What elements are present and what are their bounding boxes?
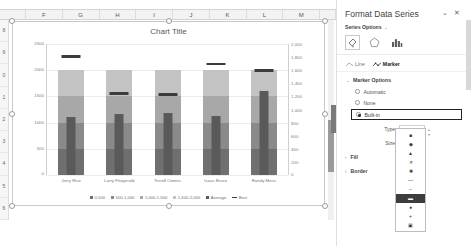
dropdown-scroll-arrows[interactable]: ▴ ▾	[427, 128, 431, 232]
best-marker[interactable]	[62, 55, 81, 58]
resize-handle-top-right[interactable]	[322, 18, 328, 24]
column-header-M[interactable]: M	[283, 10, 320, 19]
best-marker[interactable]	[110, 92, 129, 95]
bullet-columns[interactable]: Jerry RiceLarry FitzgeraldTerrell OwensI…	[47, 44, 288, 175]
row-header-cell[interactable]: 9	[0, 42, 8, 64]
line-marker-tab-row[interactable]: Line Marker	[337, 55, 471, 72]
tab-line[interactable]: Line	[346, 61, 365, 67]
chevron-down-icon[interactable]: ⌄	[384, 25, 388, 30]
average-bar[interactable]	[67, 117, 76, 175]
row-header-cell[interactable]: 1	[0, 87, 8, 109]
resize-handle-bottom-left[interactable]	[9, 203, 15, 209]
pane-scroll-thumb[interactable]	[466, 20, 471, 90]
marker-type-option[interactable]: ✕	[396, 157, 425, 166]
marker-type-option[interactable]: –	[396, 185, 425, 194]
chevron-down-icon[interactable]: ⌄	[346, 78, 350, 83]
resize-handle-middle-left[interactable]	[9, 111, 15, 117]
radio-automatic[interactable]: Automatic	[337, 86, 471, 97]
marker-type-option[interactable]: ▲	[396, 148, 425, 157]
bullet-column[interactable]: Randy Moss	[240, 44, 288, 175]
legend-color-swatch	[140, 196, 143, 199]
legend-item[interactable]: Average	[206, 195, 226, 200]
chart-legend[interactable]: 0-500500-1,0001,000-1,5001,500-2,000Aver…	[13, 195, 324, 200]
row-header-cell[interactable]: 8	[0, 20, 8, 42]
radio-icon[interactable]	[355, 100, 360, 105]
radio-icon[interactable]	[355, 89, 360, 94]
marker-type-option[interactable]: ■	[396, 130, 425, 139]
marker-type-option[interactable]: ●	[396, 203, 425, 212]
average-bar[interactable]	[163, 113, 172, 175]
legend-item[interactable]: 1,000-1,500	[140, 195, 167, 200]
bullet-column[interactable]: Isaac Bruce	[192, 44, 240, 175]
resize-handle-bottom-right[interactable]	[322, 203, 328, 209]
radio-built-in[interactable]: Built-in	[351, 109, 462, 120]
resize-handle-top-left[interactable]	[9, 18, 15, 24]
range-band[interactable]	[58, 70, 84, 96]
chevron-right-icon[interactable]: ›	[345, 169, 347, 174]
row-header-cell[interactable]: 6	[0, 198, 8, 220]
marker-type-label: Type	[337, 126, 395, 132]
row-header-cell[interactable]: 4	[0, 153, 8, 175]
column-header-L[interactable]: L	[247, 10, 284, 19]
row-header-cell[interactable]: 0	[0, 64, 8, 86]
radio-none[interactable]: None	[337, 97, 471, 108]
chart-title[interactable]: Chart Title	[13, 27, 324, 36]
column-header-G[interactable]: G	[63, 10, 100, 19]
marker-options-section-header[interactable]: ⌄ Marker Options	[337, 72, 471, 86]
legend-item[interactable]: 1,500-2,000	[173, 195, 200, 200]
plot-area[interactable]: 2500 2000 1500 1000 500 0 2,000 1,800 1,…	[47, 44, 288, 175]
tab-marker[interactable]: Marker	[373, 61, 400, 67]
marker-type-option[interactable]: ▬	[396, 194, 425, 203]
column-header-H[interactable]: H	[100, 10, 137, 19]
legend-item[interactable]: 0-500	[90, 195, 105, 200]
bullet-column[interactable]: Jerry Rice	[47, 44, 95, 175]
fill-line-icon[interactable]	[346, 36, 359, 49]
legend-item[interactable]: 500-1,000	[111, 195, 134, 200]
category-label: Isaac Bruce	[192, 178, 240, 183]
row-header-cell[interactable]: 3	[0, 131, 8, 153]
pane-icon-tabs[interactable]	[337, 33, 471, 55]
bullet-column[interactable]: Terrell Owens	[143, 44, 191, 175]
radio-icon[interactable]	[356, 112, 361, 117]
legend-color-swatch	[206, 196, 209, 199]
effects-icon[interactable]	[368, 36, 381, 49]
category-label: Randy Moss	[240, 178, 288, 183]
average-bar[interactable]	[259, 91, 268, 175]
series-options-dropdown[interactable]: Series Options ⌄	[337, 23, 471, 33]
range-band[interactable]	[203, 70, 229, 96]
chart-object[interactable]: Chart Title 2500 2000 1500 1000 500 0 2,…	[12, 21, 325, 206]
format-data-series-pane[interactable]: Format Data Series ⌄ ✕ Series Options ⌄	[336, 0, 471, 246]
column-header-K[interactable]: K	[210, 10, 247, 19]
pane-drag-strip[interactable]	[331, 105, 336, 133]
row-header-cell[interactable]: 2	[0, 109, 8, 131]
average-bar[interactable]	[211, 116, 220, 175]
close-icon[interactable]: ✕	[451, 9, 463, 17]
resize-handle-bottom-center[interactable]	[166, 203, 172, 209]
best-marker[interactable]	[254, 69, 273, 72]
marker-type-option[interactable]: +	[396, 212, 425, 221]
row-header-cell[interactable]: 5	[0, 176, 8, 198]
column-header-J[interactable]: J	[173, 10, 210, 19]
chevron-down-icon[interactable]: ⌄	[439, 9, 451, 17]
column-header-F[interactable]: F	[26, 10, 63, 19]
chevron-right-icon[interactable]: ›	[345, 155, 347, 160]
series-options-icon[interactable]	[390, 36, 403, 49]
marker-type-option[interactable]: ◆	[396, 139, 425, 148]
marker-type-option[interactable]: ▣	[396, 221, 425, 230]
secondary-value-axis[interactable]	[288, 44, 289, 175]
best-marker[interactable]	[206, 63, 225, 66]
average-bar[interactable]	[115, 114, 124, 175]
y-axis-tick-left: 0	[42, 171, 44, 176]
legend-item[interactable]: Best	[232, 195, 247, 200]
resize-handle-middle-right[interactable]	[322, 111, 328, 117]
resize-handle-top-center[interactable]	[166, 18, 172, 24]
spreadsheet-grid[interactable]: F G H I J K L M 8 9 0 1 2 3 4 5 6 Chart …	[0, 0, 336, 246]
best-marker[interactable]	[158, 93, 177, 96]
dropdown-scroll-down-icon[interactable]: ▾	[427, 133, 431, 138]
pane-vertical-scrollbar[interactable]	[466, 20, 471, 230]
marker-type-option[interactable]: —	[396, 175, 425, 184]
marker-type-dropdown-list[interactable]: ■◆▲✕✱—–▬●+▣	[395, 128, 426, 232]
marker-type-option[interactable]: ✱	[396, 166, 425, 175]
bullet-column[interactable]: Larry Fitzgerald	[95, 44, 143, 175]
y-axis-tick-left: 1500	[34, 93, 44, 98]
